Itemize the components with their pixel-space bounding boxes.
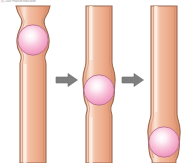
- bubble: [18, 25, 48, 55]
- stage-3-graphic: [144, 0, 190, 163]
- arrow-2: [121, 72, 145, 88]
- right-arrow-icon: [55, 72, 79, 88]
- arrow-1: [55, 72, 79, 88]
- stage-3-panel: [144, 0, 190, 163]
- right-arrow-icon: [121, 72, 145, 88]
- stage-1-graphic: [13, 0, 59, 163]
- bubble: [149, 127, 179, 157]
- stage-2-panel: [79, 0, 125, 163]
- stage-1-panel: [13, 0, 59, 163]
- bubble: [84, 75, 114, 105]
- illustration-canvas: (c) 2003 Pearson Education: [0, 0, 190, 163]
- stage-2-graphic: [79, 0, 125, 163]
